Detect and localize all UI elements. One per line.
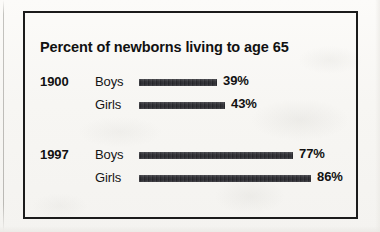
bar-group-1997: 1997 Boys 77% Girls 86% bbox=[0, 145, 380, 191]
bar-1900-girls bbox=[139, 102, 225, 109]
scanned-chart-screenshot: Percent of newborns living to age 65 190… bbox=[0, 0, 380, 232]
bar-group-1900: 1900 Boys 39% Girls 43% bbox=[0, 72, 380, 118]
series-label-girls: Girls bbox=[95, 97, 121, 112]
scan-artifact-edge-bottom bbox=[0, 226, 380, 232]
bar-value-1900-boys: 39% bbox=[223, 73, 249, 88]
bar-row: Girls 43% bbox=[0, 95, 380, 118]
series-label-girls: Girls bbox=[95, 170, 121, 185]
bar-row: Girls 86% bbox=[0, 168, 380, 191]
chart-title: Percent of newborns living to age 65 bbox=[40, 39, 289, 55]
series-label-boys: Boys bbox=[95, 147, 124, 162]
bar-value-1997-girls: 86% bbox=[317, 169, 343, 184]
bar-value-1997-boys: 77% bbox=[299, 146, 325, 161]
bar-row: Boys 39% bbox=[0, 72, 380, 95]
bar-row: Boys 77% bbox=[0, 145, 380, 168]
bar-value-1900-girls: 43% bbox=[231, 96, 257, 111]
series-label-boys: Boys bbox=[95, 74, 124, 89]
bar-1997-girls bbox=[139, 175, 311, 182]
bar-1997-boys bbox=[139, 152, 293, 159]
bar-1900-boys bbox=[139, 79, 217, 86]
